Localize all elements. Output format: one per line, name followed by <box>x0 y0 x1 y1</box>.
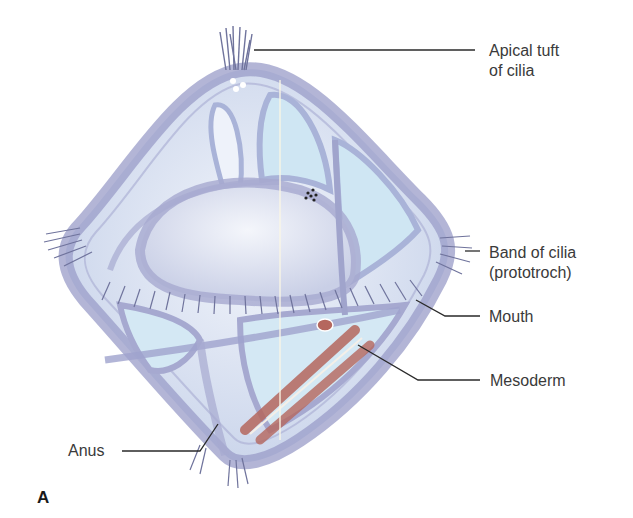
label-band-line1: Band of cilia <box>489 243 576 263</box>
label-band-of-cilia: Band of cilia (prototroch) <box>489 243 576 283</box>
label-mouth: Mouth <box>489 307 533 327</box>
label-anus: Anus <box>68 441 104 461</box>
label-apical-tuft: Apical tuft of cilia <box>489 41 559 81</box>
trochophore-diagram: Apical tuft of cilia Band of cilia (prot… <box>0 0 633 518</box>
label-band-line2: (prototroch) <box>489 263 576 283</box>
panel-letter: A <box>37 488 49 508</box>
label-mesoderm: Mesoderm <box>490 371 566 391</box>
label-apical-tuft-line2: of cilia <box>489 61 559 81</box>
apical-tuft <box>220 26 252 70</box>
label-apical-tuft-line1: Apical tuft <box>489 41 559 61</box>
